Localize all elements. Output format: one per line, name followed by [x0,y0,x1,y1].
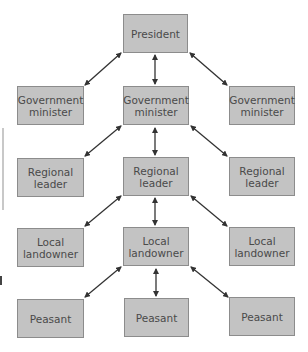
node-label: leader [28,178,73,190]
node-label: minister [18,106,83,118]
node-label: leader [133,177,178,189]
node-label: Local [128,235,183,247]
arrow-president-minister-right [190,53,227,85]
node-peasant-center: Peasant [124,298,189,337]
node-label: Local [234,235,289,247]
node-label: minister [229,106,294,118]
node-label: leader [239,177,284,189]
arrow-minister-regional-left [85,126,121,156]
node-label: landowner [234,247,289,259]
arrow-president-minister-left [85,53,121,85]
node-minister-right: Governmentminister [229,86,295,125]
node-label: landowner [128,247,183,259]
node-minister-center: Governmentminister [123,86,189,125]
node-label: Regional [239,165,284,177]
node-label: Peasant [241,311,283,323]
node-label: Government [123,94,188,106]
node-label: Regional [28,166,73,178]
node-peasant-right: Peasant [229,297,295,336]
node-local-left: Locallandowner [17,228,84,267]
node-peasant-left: Peasant [17,299,84,338]
node-label: President [131,28,180,40]
node-label: Peasant [30,313,72,325]
node-regional-left: Regionalleader [17,158,84,197]
arrow-local-peasant-left [85,267,121,297]
node-president: President [123,14,188,53]
node-label: Peasant [136,312,178,324]
node-minister-left: Governmentminister [17,86,84,125]
arrow-local-peasant-right [191,267,228,297]
node-label: landowner [23,248,78,260]
node-local-center: Locallandowner [123,227,189,266]
node-label: minister [123,106,188,118]
node-regional-center: Regionalleader [123,157,189,196]
node-label: Government [18,94,83,106]
arrow-regional-local-right [191,196,227,226]
node-regional-right: Regionalleader [229,157,295,196]
node-label: Government [229,94,294,106]
node-local-right: Locallandowner [229,227,295,266]
node-label: Regional [133,165,178,177]
arrow-minister-regional-right [191,126,227,156]
node-label: Local [23,236,78,248]
arrow-regional-local-left [85,196,121,226]
